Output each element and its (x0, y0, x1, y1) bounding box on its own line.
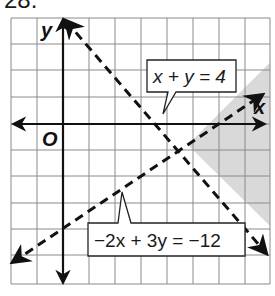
y-axis-label: y (40, 19, 53, 41)
coordinate-graph: y x O x + y = 4 −2x + 3y = −12 (0, 0, 275, 296)
label-line2-text: −2x + 3y = −12 (94, 230, 221, 251)
label-line1-text: x + y = 4 (152, 66, 226, 87)
label-callout-line1: x + y = 4 (147, 60, 236, 114)
origin-label: O (42, 128, 58, 150)
